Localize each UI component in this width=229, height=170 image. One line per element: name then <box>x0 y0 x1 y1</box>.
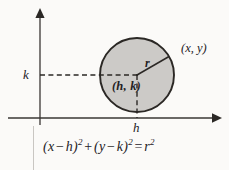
radius-label: r <box>145 57 150 69</box>
eq-term2-minus: − <box>105 139 116 154</box>
center-coordinate-label: (h, k) <box>112 80 141 93</box>
eq-term1-param: h <box>66 139 73 154</box>
y-axis-arrowhead-icon <box>35 8 44 18</box>
x-axis-arrowhead-icon <box>212 113 222 123</box>
y-axis-tick-label-k: k <box>23 68 29 81</box>
point-coordinate-label: (x, y) <box>181 42 207 55</box>
circle-equation-figure: k h r (h, k) (x, y) (x−h)2+(y−k)2=r2 <box>0 0 229 170</box>
eq-rhs-exponent: 2 <box>150 137 155 147</box>
center-point-marker <box>136 74 138 76</box>
eq-equals: = <box>133 139 144 154</box>
scan-artifact-line <box>33 126 34 170</box>
eq-term1-minus: − <box>54 139 65 154</box>
eq-plus: + <box>83 139 94 154</box>
x-axis-tick-label-h: h <box>133 121 140 134</box>
circle-equation: (x−h)2+(y−k)2=r2 <box>43 140 155 154</box>
